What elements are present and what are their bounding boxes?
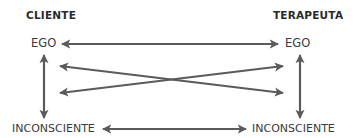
- connection-arrows: [0, 0, 358, 138]
